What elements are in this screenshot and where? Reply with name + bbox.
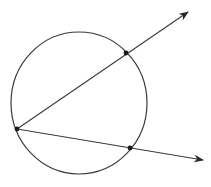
vertex-point (15, 127, 20, 132)
geometry-diagram (0, 0, 211, 187)
upper-ray (17, 12, 188, 129)
upper-intersection-point (124, 51, 129, 56)
lower-intersection-point (128, 146, 133, 151)
lower-ray (17, 129, 203, 160)
diagram-canvas (0, 0, 211, 187)
